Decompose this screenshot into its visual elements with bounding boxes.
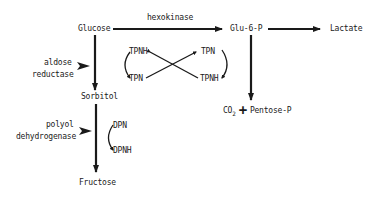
aldose-reductase-pointer-icon <box>77 62 90 70</box>
enzyme-polyol-line2: dehydrogenase <box>16 132 76 141</box>
diagram-arrows <box>0 0 374 201</box>
cofactor-tpnh-right: TPNH <box>200 74 218 83</box>
node-lactate: Lactate <box>330 24 362 33</box>
cofactor-tpn-right: TPN <box>201 47 215 56</box>
node-fructose: Fructose <box>79 178 116 187</box>
plus-sign: + <box>239 102 247 118</box>
cross-line-2 <box>146 52 196 78</box>
co2-subscript: 2 <box>232 110 235 117</box>
co2-label: CO <box>223 106 232 115</box>
cofactor-tpn-left: TPN <box>129 74 143 83</box>
cofactor-dpn: DPN <box>113 121 127 130</box>
enzyme-hexokinase: hexokinase <box>147 13 193 22</box>
polyol-dehydrogenase-pointer-icon <box>79 127 92 135</box>
node-glu6p: Glu-6-P <box>230 24 262 33</box>
node-glucose: Glucose <box>78 24 110 33</box>
cofactor-dpnh: DPNH <box>113 146 131 155</box>
enzyme-aldose-line1: aldose <box>44 58 72 67</box>
cofactor-tpnh-left: TPNH <box>129 47 147 56</box>
enzyme-aldose-line2: reductase <box>32 70 74 79</box>
polyol-pathway-diagram: Glucose Glu-6-P Lactate Sorbitol Fructos… <box>0 0 374 201</box>
pentose-p-label: Pentose-P <box>250 106 292 115</box>
node-sorbitol: Sorbitol <box>81 92 118 101</box>
cross-line-1 <box>150 52 198 78</box>
enzyme-polyol-line1: polyol <box>46 120 74 129</box>
node-co2-pentose: CO2+Pentose-P <box>223 104 291 115</box>
right-cofactor-curve <box>222 50 227 78</box>
